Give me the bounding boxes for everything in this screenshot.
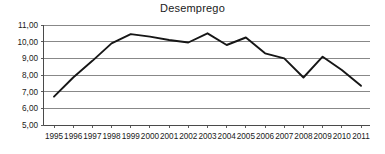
x-axis-tick-label: 1998 xyxy=(102,132,121,141)
y-axis-tick-label: 6,00 xyxy=(22,104,38,113)
x-axis-tick-label: 2008 xyxy=(294,132,313,141)
x-axis-tick-label: 1999 xyxy=(122,132,141,141)
data-series-line-desemprego xyxy=(54,33,361,96)
x-axis-tick-label: 2004 xyxy=(218,132,237,141)
y-axis-tick-label: 10,00 xyxy=(18,38,39,47)
x-axis-tick-labels: 1995199619971998199920002001200220032004… xyxy=(45,132,370,141)
x-axis-tick-label: 2002 xyxy=(179,132,198,141)
x-axis-tick-label: 1996 xyxy=(64,132,83,141)
chart-plot-area: 5,006,007,008,009,0010,0011,00 199519961… xyxy=(0,0,385,154)
x-axis-tick-label: 1997 xyxy=(83,132,102,141)
x-axis-tick-label: 2005 xyxy=(237,132,256,141)
y-axis-tick-label: 5,00 xyxy=(22,121,38,130)
x-axis-tick-label: 1995 xyxy=(45,132,64,141)
gridlines xyxy=(41,25,370,125)
y-axis-tick-labels: 5,006,007,008,009,0010,0011,00 xyxy=(18,21,39,130)
x-axis-tick-label: 2000 xyxy=(141,132,160,141)
y-axis-tick-label: 8,00 xyxy=(22,71,38,80)
x-axis-tick-label: 2009 xyxy=(314,132,333,141)
x-axis-tick-label: 2007 xyxy=(275,132,294,141)
x-axis-tick-label: 2010 xyxy=(333,132,352,141)
y-axis-tick-label: 7,00 xyxy=(22,88,38,97)
x-axis-tick-label: 2001 xyxy=(160,132,179,141)
x-axis-tick-label: 2006 xyxy=(256,132,275,141)
x-axis-tick-label: 2011 xyxy=(352,132,370,141)
y-axis-tick-label: 11,00 xyxy=(18,21,38,30)
y-axis-tick-label: 9,00 xyxy=(22,54,38,63)
unemployment-line-chart: Desemprego 5,006,007,008,009,0010,0011,0… xyxy=(0,0,385,154)
x-axis-tick-label: 2003 xyxy=(198,132,217,141)
